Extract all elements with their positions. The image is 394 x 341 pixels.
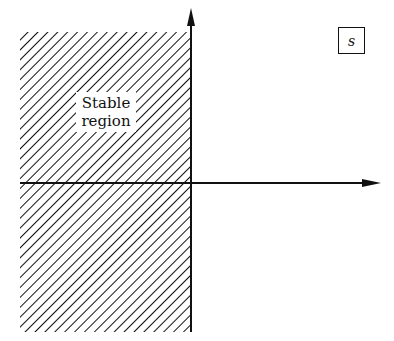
s-plane-diagram [0,0,394,341]
s-plane-label-text: s [348,33,355,49]
imaginary-axis-arrowhead [187,8,195,26]
stable-region-label-line1: Stable [76,94,136,112]
stable-region-label-line2: region [76,112,136,130]
stable-region-label: Stable region [76,92,136,132]
real-axis-arrowhead [362,179,381,187]
s-plane-label: s [338,27,365,54]
